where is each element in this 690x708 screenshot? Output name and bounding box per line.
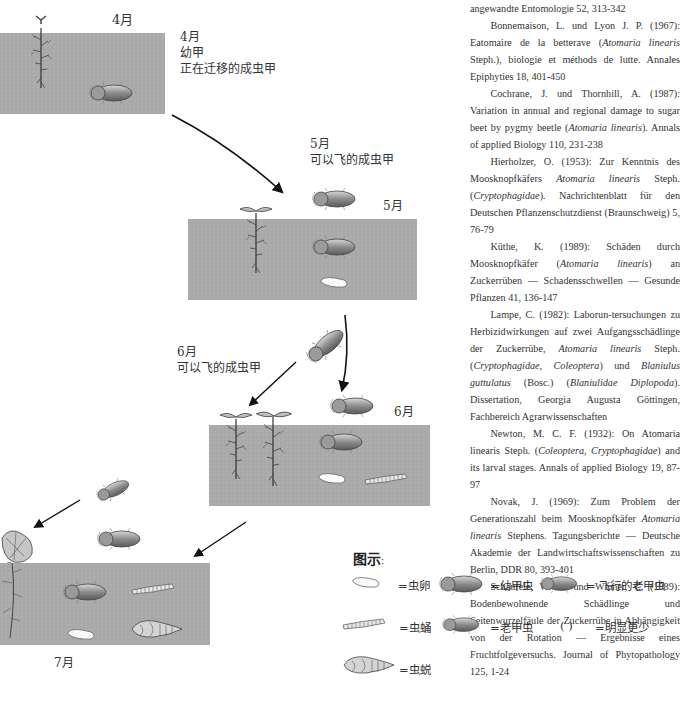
july-young-beetle-icon	[64, 583, 110, 603]
legend-egg-icon	[352, 576, 382, 590]
reference-entry: Lampe, C. (1982): Laborun-tersuchungen z…	[470, 306, 680, 425]
reference-entry: Cochrane, J. und Thornhill, A. (1987): V…	[470, 85, 680, 153]
july-egg-icon	[67, 628, 97, 642]
july-pupa-icon	[132, 619, 184, 639]
legend-old-beetle-icon	[443, 617, 483, 635]
reference-entry: Küthe, K. (1989): Schäden durch Moosknop…	[470, 238, 680, 306]
legend-title: 图示:	[353, 548, 384, 568]
reference-entry: Novak, J. (1969): Zum Problem der Genera…	[470, 493, 680, 578]
legend-label-larva: =虫蛹	[399, 619, 431, 635]
reference-entry: angewandte Entomologie 52, 313-342	[470, 0, 680, 17]
july-plant-roots-icon	[0, 563, 30, 643]
legend-label-flying-beetle: = 飞行的老甲虫	[586, 577, 665, 593]
july-larva-icon	[132, 584, 176, 596]
reference-entry: Newton, M. C. F. (1932): On Atomaria lin…	[470, 425, 680, 493]
legend-pupa-icon	[344, 655, 396, 675]
legend-label-pupa: =虫蜕	[399, 661, 431, 677]
reference-entry: Bonnemaison, L. und Lyon J. P. (1967): E…	[470, 17, 680, 85]
legend-larva-icon	[343, 619, 387, 631]
legend-young-beetle-icon	[440, 575, 486, 595]
legend-flying-beetle-icon	[541, 576, 581, 594]
july-old-beetle-icon	[98, 530, 144, 550]
legend-label-old-beetle: =老甲虫	[490, 619, 533, 635]
legend-parentheses-icon: ( )	[560, 619, 573, 633]
july-month-bottom: 7月	[54, 655, 74, 671]
reference-entry: Hierholzer, O. (1953): Zur Kenntnis des …	[470, 153, 680, 238]
legend-label-egg: =虫卵	[398, 577, 430, 593]
legend-label-fewer: =明显更少	[595, 619, 649, 635]
legend-label-young-beetle: =幼甲虫	[490, 577, 533, 593]
